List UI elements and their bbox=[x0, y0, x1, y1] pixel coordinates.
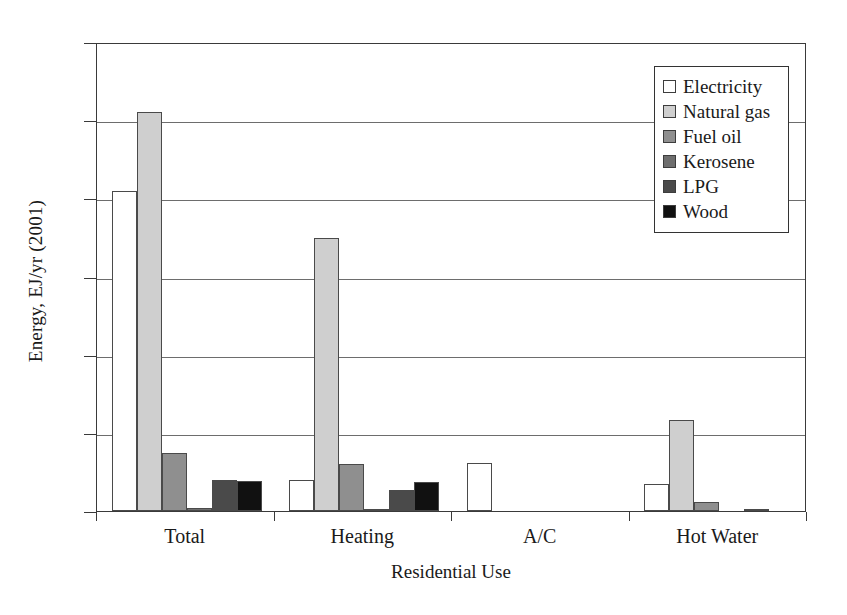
legend-swatch-icon bbox=[663, 205, 676, 218]
x-axis-tick-mark bbox=[451, 512, 452, 521]
x-axis-tick-mark bbox=[629, 512, 630, 521]
legend-label: Fuel oil bbox=[683, 127, 742, 146]
bar bbox=[694, 502, 719, 511]
bar bbox=[467, 463, 492, 511]
gridline bbox=[97, 435, 805, 436]
bar bbox=[137, 112, 162, 511]
legend-swatch-icon bbox=[663, 180, 676, 193]
legend-item: Natural gas bbox=[663, 99, 780, 124]
y-axis-tick-mark bbox=[84, 512, 96, 513]
legend: ElectricityNatural gasFuel oilKeroseneLP… bbox=[654, 66, 789, 233]
bar bbox=[112, 191, 137, 511]
legend-label: Natural gas bbox=[683, 102, 770, 121]
y-axis-title: Energy, EJ/yr (2001) bbox=[25, 131, 47, 431]
bar bbox=[212, 480, 237, 511]
y-axis-tick-mark bbox=[84, 356, 96, 357]
x-axis-category-label: Total bbox=[100, 525, 270, 548]
y-axis-tick-mark bbox=[84, 434, 96, 435]
legend-swatch-icon bbox=[663, 105, 676, 118]
legend-item: Electricity bbox=[663, 74, 780, 99]
x-axis-tick-mark bbox=[274, 512, 275, 521]
y-axis-tick-mark bbox=[84, 199, 96, 200]
bar bbox=[414, 482, 439, 511]
bar bbox=[162, 453, 187, 511]
x-axis-category-label: A/C bbox=[455, 525, 625, 548]
gridline bbox=[97, 357, 805, 358]
bar-chart-figure: Energy, EJ/yr (2001) 0123456 TotalHeatin… bbox=[0, 0, 847, 615]
bar bbox=[237, 481, 262, 511]
bar bbox=[669, 420, 694, 511]
x-axis-category-label: Heating bbox=[277, 525, 447, 548]
y-axis-tick-mark bbox=[84, 121, 96, 122]
legend-label: LPG bbox=[683, 177, 719, 196]
legend-item: LPG bbox=[663, 174, 780, 199]
legend-swatch-icon bbox=[663, 80, 676, 93]
bar bbox=[187, 508, 212, 511]
x-axis-category-label: Hot Water bbox=[632, 525, 802, 548]
bar bbox=[339, 464, 364, 511]
legend-item: Wood bbox=[663, 199, 780, 224]
legend-item: Kerosene bbox=[663, 149, 780, 174]
y-axis-tick-mark bbox=[84, 43, 96, 44]
x-axis-title: Residential Use bbox=[96, 561, 806, 583]
y-axis-tick-mark bbox=[84, 278, 96, 279]
bar bbox=[644, 484, 669, 511]
bar bbox=[389, 490, 414, 511]
bar bbox=[289, 480, 314, 511]
legend-swatch-icon bbox=[663, 130, 676, 143]
bar bbox=[744, 509, 769, 511]
gridline bbox=[97, 279, 805, 280]
legend-label: Electricity bbox=[683, 77, 762, 96]
legend-label: Wood bbox=[683, 202, 728, 221]
bar bbox=[314, 238, 339, 511]
bar bbox=[364, 509, 389, 511]
x-axis-tick-mark bbox=[96, 512, 97, 521]
legend-label: Kerosene bbox=[683, 152, 755, 171]
legend-item: Fuel oil bbox=[663, 124, 780, 149]
legend-swatch-icon bbox=[663, 155, 676, 168]
x-axis-tick-mark bbox=[806, 512, 807, 521]
